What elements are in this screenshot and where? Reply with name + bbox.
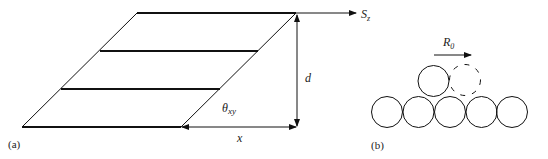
sphere [435,97,466,128]
panel-a-label: (a) [8,138,21,151]
figure: Sz d x θxy (a) R0 (b) [0,0,548,159]
sphere [403,97,434,128]
d-label: d [305,71,312,85]
x-label: x [236,131,243,145]
theta-label: θxy [222,101,236,116]
sphere [372,97,403,128]
left-edge [22,13,137,127]
sheared-stack [22,13,296,127]
panel-b: R0 (b) [371,35,528,152]
right-edge [181,13,296,127]
top-sphere [418,66,449,97]
sphere [497,97,528,128]
bottom-row-spheres [372,97,528,128]
sz-label: Sz [361,7,371,23]
r0-label: R0 [442,35,454,51]
panel-a: Sz d x θxy (a) [8,7,371,151]
sphere [466,97,497,128]
displaced-sphere-dashed [450,65,481,96]
panel-b-label: (b) [371,139,384,152]
